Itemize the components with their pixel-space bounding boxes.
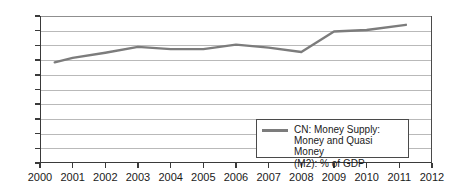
legend-color-swatch-icon (262, 129, 288, 132)
x-axis-tick-mark (72, 163, 74, 168)
x-axis-tick-mark (170, 163, 172, 168)
x-axis-tick-mark (203, 163, 205, 168)
x-axis-tick-mark (137, 163, 139, 168)
x-axis-tick-mark (39, 163, 41, 168)
x-axis-tick-mark (105, 163, 107, 168)
legend-swatch-wrap (262, 124, 288, 132)
chart-legend: CN: Money Supply: Money and Quasi Money … (256, 119, 409, 158)
x-axis-tick-mark (235, 163, 237, 168)
x-axis-tick-label: 2012 (412, 172, 452, 183)
line-chart: 200180160140120100806040200 200020012002… (0, 0, 457, 195)
legend-label: CN: Money Supply: Money and Quasi Money … (294, 124, 403, 169)
series-line-cn-m2-pct-gdp (55, 25, 406, 62)
x-axis-tick-mark (431, 163, 433, 168)
x-axis-tick-mark (268, 163, 270, 168)
